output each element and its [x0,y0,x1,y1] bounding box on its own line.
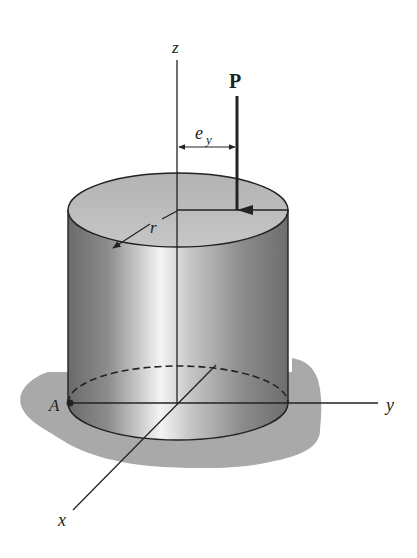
x-axis-label: x [57,510,66,530]
y-axis-label: y [384,395,394,415]
eccentricity-label: e [195,123,203,143]
point-a-label: A [48,396,60,415]
cylinder-diagram: z r P e y y x A [0,0,417,558]
point-a-marker [67,400,74,407]
eccentricity-subscript: y [204,132,212,147]
radius-label: r [150,218,157,237]
z-axis-label: z [171,38,179,57]
load-label: P [229,70,241,92]
